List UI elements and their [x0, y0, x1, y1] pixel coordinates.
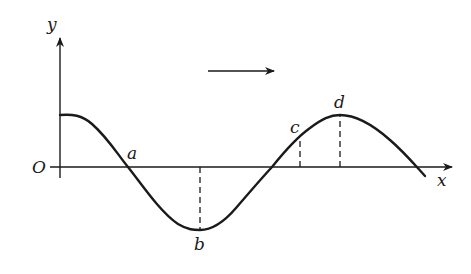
wave-diagram: y x O a b c d [0, 0, 471, 274]
x-axis-label: x [437, 170, 447, 190]
point-label-b: b [194, 234, 205, 254]
point-label-c: c [290, 117, 300, 137]
y-axis-label: y [46, 14, 57, 34]
wave-curve [60, 115, 425, 230]
point-label-a: a [127, 143, 137, 163]
origin-label: O [32, 157, 46, 177]
point-label-d: d [334, 92, 345, 112]
